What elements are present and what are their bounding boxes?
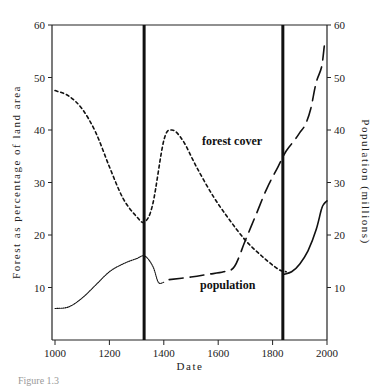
x-tick-label: 1000 <box>44 347 67 359</box>
left-y-tick-label: 30 <box>34 177 46 189</box>
left-y-tick-label: 10 <box>34 282 46 294</box>
figure-caption: Figure 1.3 <box>18 375 59 386</box>
x-axis-ticks: 100012001400160018002000 <box>44 340 339 359</box>
right-y-tick-label: 40 <box>334 124 346 136</box>
series-line <box>55 256 164 309</box>
right-y-tick-label: 30 <box>334 177 346 189</box>
left-y-axis-label: Forest as percentage of land area <box>10 85 22 279</box>
data-series <box>55 46 327 309</box>
series-line <box>284 201 328 275</box>
series-line <box>55 91 286 272</box>
left-y-tick-label: 50 <box>34 72 46 84</box>
right-y-tick-label: 20 <box>334 229 346 241</box>
x-tick-label: 1200 <box>98 347 121 359</box>
right-y-axis-ticks: 102030405060 <box>327 19 346 294</box>
left-y-axis-ticks: 102030405060 <box>34 19 52 294</box>
x-tick-label: 2000 <box>316 347 339 359</box>
right-y-tick-label: 10 <box>334 282 346 294</box>
x-tick-label: 1800 <box>262 347 285 359</box>
plot-frame <box>52 25 327 340</box>
left-y-tick-label: 40 <box>34 124 46 136</box>
chart: 100012001400160018002000 102030405060 10… <box>0 0 377 389</box>
x-tick-label: 1600 <box>207 347 230 359</box>
left-y-tick-label: 60 <box>34 19 46 31</box>
right-y-tick-label: 50 <box>334 72 346 84</box>
right-y-axis-label: Population (millions) <box>359 119 372 244</box>
annotation-population: population <box>200 278 256 292</box>
x-axis-label: Date <box>177 360 204 372</box>
vertical-markers <box>144 25 283 340</box>
right-y-tick-label: 60 <box>334 19 346 31</box>
series-line <box>169 46 324 280</box>
left-y-tick-label: 20 <box>34 229 46 241</box>
annotation-forest-cover: forest cover <box>202 134 263 148</box>
x-tick-label: 1400 <box>153 347 176 359</box>
